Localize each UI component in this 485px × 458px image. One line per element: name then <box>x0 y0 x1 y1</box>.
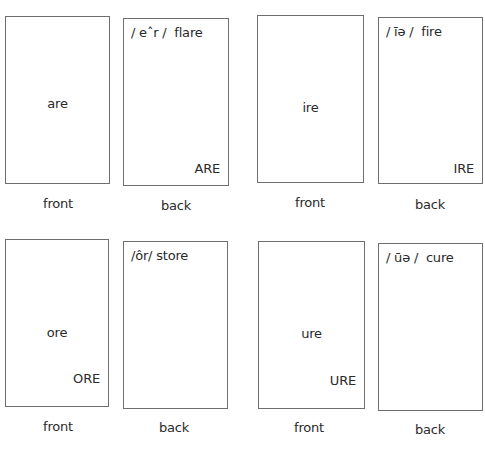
front-word: are <box>6 96 109 111</box>
front-label: front <box>269 420 349 435</box>
front-word: ire <box>258 100 363 115</box>
phonetic-key: /ôr/ store <box>131 248 188 263</box>
flashcard-back-ore: /ôr/ store <box>123 241 228 409</box>
front-label: front <box>18 419 98 434</box>
flashcard-back-ure: / ūə / cure <box>378 243 483 411</box>
back-word: IRE <box>454 161 474 176</box>
flashcard-front-ure: ure URE <box>258 241 365 409</box>
back-label: back <box>390 197 470 212</box>
back-word: ARE <box>194 161 220 176</box>
front-word: ore <box>6 325 108 340</box>
back-label: back <box>136 198 216 213</box>
front-corner-word: ORE <box>73 371 100 386</box>
front-word: ure <box>259 326 364 341</box>
phonetic-key: / īə / fire <box>386 24 442 39</box>
front-label: front <box>270 195 350 210</box>
phonetic-key: / ūə / cure <box>386 250 454 265</box>
flashcard-front-ore: ore ORE <box>5 239 109 407</box>
front-label: front <box>18 196 98 211</box>
back-label: back <box>390 422 470 437</box>
flashcard-back-are: / eˆr / flare ARE <box>123 18 229 186</box>
flashcard-front-are: are <box>5 16 110 184</box>
back-label: back <box>134 420 214 435</box>
front-corner-word: URE <box>330 373 356 388</box>
flashcard-back-ire: / īə / fire IRE <box>378 17 483 184</box>
phonetic-key: / eˆr / flare <box>131 25 203 40</box>
flashcard-front-ire: ire <box>257 15 364 183</box>
